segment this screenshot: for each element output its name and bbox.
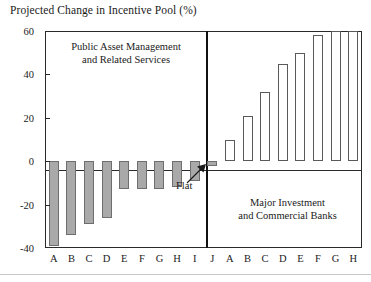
y-axis-tick-label: 0 bbox=[0, 156, 34, 167]
bar-panel0-D bbox=[102, 161, 112, 217]
panel-label-line1: Major Investment bbox=[215, 196, 360, 209]
bar-panel0-B bbox=[66, 161, 76, 235]
page-divider bbox=[0, 274, 371, 275]
x-axis-label-0-D: D bbox=[103, 253, 111, 264]
y-axis-tick-label: 40 bbox=[0, 69, 34, 80]
bar-panel1-A bbox=[225, 140, 235, 162]
x-axis-label-0-B: B bbox=[68, 253, 75, 264]
bar-panel0-F bbox=[137, 161, 147, 189]
bar-panel1-B bbox=[243, 116, 253, 162]
x-axis-label-1-D: D bbox=[279, 253, 287, 264]
bar-panel0-E bbox=[119, 161, 129, 189]
panel-label-line2: and Commercial Banks bbox=[215, 209, 360, 222]
x-axis-label-1-H: H bbox=[349, 253, 357, 264]
panel-label-line2: and Related Services bbox=[56, 53, 196, 66]
x-axis-label-1-C: C bbox=[262, 253, 269, 264]
panel-label-line1: Public Asset Management bbox=[56, 40, 196, 53]
x-axis-label-0-C: C bbox=[86, 253, 93, 264]
x-axis-label-0-H: H bbox=[173, 253, 181, 264]
x-axis-label-0-A: A bbox=[50, 253, 58, 264]
x-axis-label-0-E: E bbox=[121, 253, 127, 264]
bar-panel1-E bbox=[295, 53, 305, 162]
bar-panel0-J bbox=[207, 161, 217, 165]
x-axis-label-0-F: F bbox=[139, 253, 145, 264]
y-axis-tick bbox=[45, 161, 50, 162]
x-axis-label-0-J: J bbox=[210, 253, 214, 264]
bar-panel1-H bbox=[348, 31, 358, 161]
x-axis-label-1-E: E bbox=[297, 253, 303, 264]
panel-label-public-asset-management: Public Asset Management and Related Serv… bbox=[56, 40, 196, 66]
y-axis-tick-label: 20 bbox=[0, 112, 34, 123]
x-axis-label-1-A: A bbox=[226, 253, 234, 264]
bar-panel1-C bbox=[260, 92, 270, 161]
panel-label-major-investment-banks: Major Investment and Commercial Banks bbox=[215, 196, 360, 222]
y-axis-tick-label: -40 bbox=[0, 243, 34, 254]
x-axis-label-0-G: G bbox=[156, 253, 164, 264]
y-axis-tick bbox=[45, 118, 50, 119]
x-axis-label-1-B: B bbox=[244, 253, 251, 264]
y-axis-tick bbox=[45, 74, 50, 75]
y-axis-tick-label: 60 bbox=[0, 26, 34, 37]
x-axis-labels: ABCDEFGHIJABCDEFGH bbox=[0, 253, 371, 269]
bar-panel0-G bbox=[154, 161, 164, 189]
x-axis-label-0-I: I bbox=[193, 253, 197, 264]
bar-panel1-F bbox=[313, 35, 323, 161]
y-axis-tick bbox=[45, 205, 50, 206]
chart-container: Projected Change in Incentive Pool (%) P… bbox=[0, 0, 371, 282]
bar-panel0-C bbox=[84, 161, 94, 224]
bar-panel0-A bbox=[49, 161, 59, 246]
x-axis-label-1-G: G bbox=[332, 253, 340, 264]
bar-panel1-D bbox=[278, 64, 288, 162]
flat-annotation-label: Flat bbox=[176, 180, 192, 191]
bar-panel1-G bbox=[331, 31, 341, 161]
y-axis-tick-label: -20 bbox=[0, 199, 34, 210]
x-axis-label-1-F: F bbox=[315, 253, 321, 264]
